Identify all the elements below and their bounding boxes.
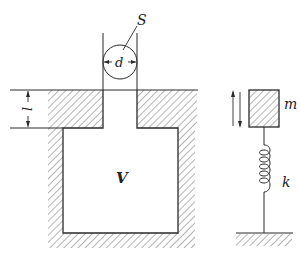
area-label: S bbox=[137, 12, 147, 28]
mass-label: m bbox=[284, 96, 297, 112]
diagram-svg: d S l V m k bbox=[0, 0, 300, 261]
spring-constant-label: k bbox=[282, 174, 290, 190]
resonator: d S l V bbox=[10, 12, 198, 248]
ground-hatching bbox=[236, 234, 292, 246]
spring bbox=[260, 127, 271, 233]
diagram-canvas: d S l V m k bbox=[0, 0, 300, 261]
cavity-volume-label: V bbox=[116, 169, 129, 187]
diameter-label: d bbox=[115, 55, 123, 70]
mass-spring-system: m k bbox=[231, 90, 297, 246]
area-leader-line bbox=[123, 26, 137, 50]
neck-length-label: l bbox=[20, 107, 35, 111]
motion-arrow-icon bbox=[231, 90, 242, 128]
mass-block bbox=[249, 90, 279, 127]
